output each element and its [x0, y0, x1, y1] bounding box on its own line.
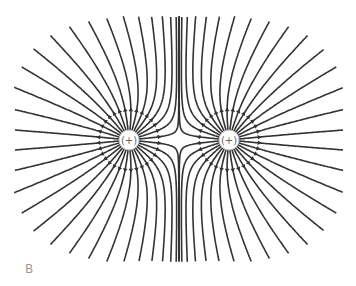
- field-line: [51, 36, 125, 132]
- field-line: [227, 19, 251, 131]
- arrow-icon: [96, 141, 100, 146]
- field-line: [239, 143, 343, 171]
- arrow-icon: [225, 169, 230, 173]
- field-line: [107, 19, 131, 131]
- field-line: [15, 130, 119, 139]
- field-line: [15, 110, 119, 138]
- arrow-icon: [258, 135, 262, 140]
- field-line: [135, 17, 156, 133]
- field-lines: [14, 16, 343, 262]
- arrow-icon: [225, 107, 230, 111]
- field-line: [138, 17, 172, 135]
- field-line: [227, 150, 251, 262]
- arrow-icon: [129, 107, 134, 111]
- arrow-icon: [129, 169, 134, 173]
- field-line: [107, 150, 131, 262]
- field-line: [234, 36, 308, 132]
- positive-charge-left: (+): [119, 130, 139, 150]
- arrow-icon: [258, 141, 262, 146]
- field-line: [239, 110, 343, 138]
- field-line: [51, 149, 125, 245]
- field-line: [186, 17, 220, 135]
- field-line: [15, 141, 119, 150]
- charge-label: (+): [221, 135, 237, 146]
- field-line: [239, 141, 343, 150]
- charge-label: (+): [121, 135, 137, 146]
- field-line: [201, 17, 222, 133]
- arrow-icon: [96, 135, 100, 140]
- positive-charge-right: (+): [219, 130, 239, 150]
- field-line-diagram: (+)(+): [0, 0, 356, 286]
- field-line: [239, 130, 343, 139]
- field-line: [234, 149, 308, 245]
- field-line: [15, 143, 119, 171]
- panel-label: B: [25, 262, 33, 276]
